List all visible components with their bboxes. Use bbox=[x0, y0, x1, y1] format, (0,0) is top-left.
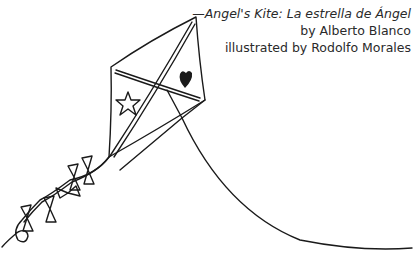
book-title-line: —Angel's Kite: La estrella de Ángel bbox=[192, 5, 411, 22]
illustrator-line: illustrated by Rodolfo Morales bbox=[192, 39, 411, 56]
kite-string bbox=[182, 118, 412, 249]
kite-tail bbox=[2, 157, 109, 247]
author-line: by Alberto Blanco bbox=[192, 22, 411, 39]
kite-tail-bows bbox=[21, 156, 94, 231]
book-caption: —Angel's Kite: La estrella de Ángel by A… bbox=[192, 5, 411, 56]
em-dash: — bbox=[192, 6, 205, 21]
book-title: Angel's Kite: La estrella de Ángel bbox=[205, 6, 411, 21]
kite-bridle bbox=[120, 90, 205, 170]
kite-spine bbox=[110, 22, 195, 157]
heart-icon bbox=[180, 71, 193, 88]
star-icon bbox=[116, 92, 140, 115]
